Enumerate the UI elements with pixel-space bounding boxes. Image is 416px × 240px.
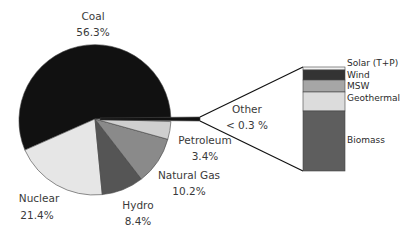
label-msw: MSW (347, 81, 369, 91)
label-coal-value: 56.3% (76, 26, 109, 38)
pie-slice-other (100, 117, 200, 121)
bar-segment-biomass (303, 111, 345, 171)
stacked-bar (303, 67, 345, 171)
label-coal-name: Coal (81, 10, 104, 22)
label-other-value: < 0.3 % (226, 119, 268, 131)
chart: Coal 56.3% Nuclear 21.4% Hydro 8.4% Natu… (0, 0, 416, 240)
label-geothermal: Geothermal (347, 93, 400, 103)
bar-segment-geothermal (303, 92, 345, 111)
label-petroleum-name: Petroleum (178, 134, 231, 146)
label-wind: Wind (347, 70, 370, 80)
label-nuclear-value: 21.4% (20, 209, 53, 221)
label-other-name: Other (232, 103, 262, 115)
label-petroleum-value: 3.4% (192, 150, 219, 162)
bar-segment-wind (303, 70, 345, 80)
label-natural-gas-name: Natural Gas (158, 169, 220, 181)
label-natural-gas-value: 10.2% (172, 185, 205, 197)
label-hydro-name: Hydro (122, 199, 153, 211)
bar-segment-solar (303, 67, 345, 70)
label-solar: Solar (T+P) (347, 58, 398, 68)
label-nuclear-name: Nuclear (19, 192, 60, 204)
bar-segment-msw (303, 80, 345, 92)
label-hydro-value: 8.4% (125, 215, 152, 227)
label-biomass: Biomass (347, 135, 385, 145)
